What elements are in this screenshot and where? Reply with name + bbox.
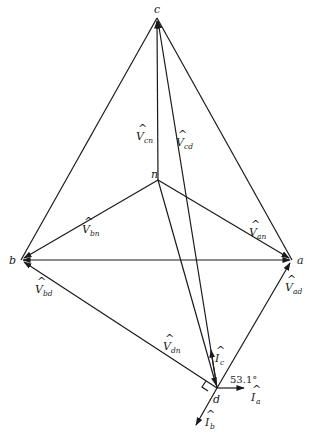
- node-label-d: d: [213, 393, 220, 406]
- node-label-c: c: [154, 3, 160, 16]
- right-angle-mark: [202, 381, 208, 391]
- phasor-v-bd: [24, 262, 217, 388]
- svg-text:b: b: [210, 422, 215, 431]
- svg-text:bn: bn: [90, 229, 100, 238]
- label-v-dn: ^ V dn: [163, 332, 181, 355]
- phasor-v-ad: [217, 263, 290, 388]
- svg-text:c: c: [220, 358, 225, 367]
- svg-text:dn: dn: [171, 346, 181, 355]
- svg-text:an: an: [257, 232, 266, 241]
- label-v-ad: ^ V ad: [285, 273, 302, 296]
- label-v-an: ^ V an: [249, 218, 266, 241]
- angle-label: 53.1°: [230, 374, 257, 385]
- svg-text:a: a: [256, 397, 260, 406]
- svg-text:cn: cn: [144, 136, 153, 145]
- label-i-b: ^ I b: [204, 408, 215, 431]
- label-v-cd: ^ V cd: [176, 128, 193, 151]
- phasor-diagram: c n b a d ^ V cn ^ V cd ^ V bn ^ V an ^ …: [0, 0, 311, 437]
- label-v-bn: ^ V bn: [82, 215, 100, 238]
- node-label-a: a: [297, 254, 304, 267]
- svg-text:ad: ad: [293, 287, 302, 296]
- phasor-v-cn: [157, 21, 158, 180]
- label-i-c: ^ I c: [214, 344, 225, 367]
- svg-text:bd: bd: [43, 289, 53, 298]
- node-label-b: b: [9, 254, 16, 267]
- label-i-a: ^ I a: [250, 383, 261, 406]
- node-label-n: n: [151, 168, 158, 181]
- phasor-v-dn: [158, 180, 216, 385]
- svg-text:cd: cd: [184, 142, 193, 151]
- label-v-cn: ^ V cn: [136, 122, 153, 145]
